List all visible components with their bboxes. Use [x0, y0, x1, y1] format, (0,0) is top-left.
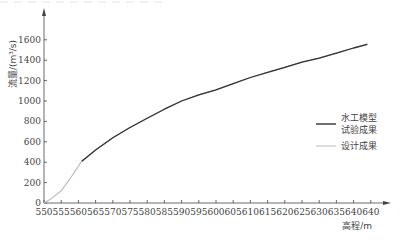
- y-tick-label: 1000: [18, 96, 41, 106]
- x-axis: 5505555605655705755805855905956006056106…: [35, 200, 391, 217]
- x-tick-label: 605: [225, 207, 242, 217]
- x-tick-label: 595: [190, 207, 207, 217]
- x-tick-label: 560: [70, 207, 87, 217]
- y-axis-title: 流量/(m³/s): [7, 40, 18, 88]
- x-tick-label: 575: [121, 207, 138, 217]
- y-tick-label: 200: [24, 178, 41, 188]
- x-tick-label: 565: [87, 207, 104, 217]
- y-tick-label: 1200: [18, 76, 41, 86]
- x-tick-label: 610: [242, 207, 259, 217]
- x-tick-label: 590: [173, 207, 190, 217]
- x-tick-label: 555: [53, 207, 70, 217]
- x-tick-label: 615: [259, 207, 276, 217]
- y-tick-label: 600: [24, 137, 41, 147]
- x-tick-label: 640: [362, 207, 379, 217]
- y-tick-label: 400: [24, 157, 41, 167]
- x-tick-label: 620: [276, 207, 293, 217]
- x-tick-label: 625: [293, 207, 310, 217]
- legend: 水工模型 试验成果 设计成果: [316, 112, 377, 151]
- y-tick-label: 800: [24, 116, 41, 126]
- y-axis: 02004006008001000120014001600: [18, 8, 47, 208]
- x-tick-label: 550: [35, 207, 52, 217]
- x-tick-label: 635: [328, 207, 345, 217]
- x-tick-label: 585: [156, 207, 173, 217]
- legend-label-model-2: 试验成果: [341, 124, 377, 135]
- x-tick-label: 600: [207, 207, 224, 217]
- x-axis-arrow-icon: [383, 201, 391, 205]
- x-tick-label: 640: [345, 207, 362, 217]
- y-tick-label: 1600: [18, 35, 41, 45]
- legend-label-design: 设计成果: [341, 140, 377, 151]
- x-tick-label: 630: [311, 207, 328, 217]
- y-tick-label: 1400: [18, 55, 41, 65]
- y-axis-arrow-icon: [42, 8, 46, 16]
- x-tick-label: 570: [104, 207, 121, 217]
- x-tick-label: 580: [139, 207, 156, 217]
- series-model-line: [82, 44, 368, 161]
- flow-elevation-chart: 02004006008001000120014001600 5505555605…: [0, 0, 401, 240]
- legend-label-model-1: 水工模型: [341, 112, 377, 123]
- x-axis-title: 高程/m: [342, 220, 372, 231]
